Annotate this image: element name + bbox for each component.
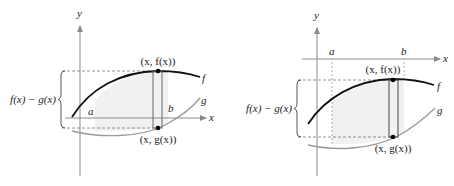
point-f <box>156 69 161 74</box>
bound-b-label: b <box>401 45 407 57</box>
height-label: f(x) − g(x) <box>10 93 56 106</box>
left-panel: y x f(x) − g(x) g f (x, f(x)) (x, g(x)) … <box>10 7 214 176</box>
point-g-label: (x, g(x)) <box>375 142 412 155</box>
g-curve-label: g <box>201 94 207 106</box>
bound-a-label: a <box>88 105 94 117</box>
bound-b-label: b <box>168 102 174 114</box>
bound-a-label: a <box>329 45 335 57</box>
point-f-label: (x, f(x)) <box>141 55 176 68</box>
point-g <box>391 135 396 140</box>
height-brace <box>294 80 301 137</box>
shaded-region <box>332 79 404 144</box>
height-brace <box>58 71 65 128</box>
height-label: f(x) − g(x) <box>246 102 292 115</box>
x-axis-label: x <box>208 111 214 123</box>
shaded-region <box>95 71 168 131</box>
point-g <box>156 126 161 131</box>
point-f-label: (x, f(x)) <box>366 63 401 76</box>
point-g-label: (x, g(x)) <box>140 133 177 146</box>
area-between-curves-diagram: y x f(x) − g(x) g f (x, f(x)) (x, g(x)) … <box>0 0 454 186</box>
f-curve-label: f <box>437 80 442 92</box>
g-curve-label: g <box>437 104 443 116</box>
right-panel: y x a b f(x) − g(x) g f (x, f(x)) (x, g(… <box>246 9 448 176</box>
x-axis-label: x <box>442 52 448 64</box>
y-axis-label: y <box>313 9 319 21</box>
point-f <box>391 78 396 83</box>
y-axis-label: y <box>76 7 82 19</box>
f-curve-label: f <box>202 72 207 84</box>
